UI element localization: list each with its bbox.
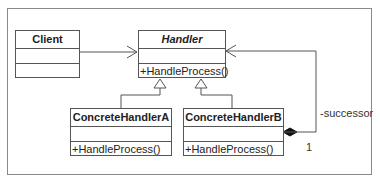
class-concrete-handler-a[interactable]: ConcreteHandlerA +HandleProcess() [70, 108, 172, 156]
class-name: ConcreteHandlerA [71, 109, 171, 127]
class-name: Handler [139, 31, 225, 49]
class-operation: +HandleProcess() [71, 142, 171, 156]
class-handler[interactable]: Handler +HandleProcess() [138, 30, 226, 78]
class-operations [16, 64, 79, 78]
successor-role-label: -successor [320, 107, 373, 119]
connectors [0, 0, 380, 185]
class-name: Client [16, 31, 79, 49]
class-attributes [16, 49, 79, 64]
class-concrete-handler-b[interactable]: ConcreteHandlerB +HandleProcess() [183, 108, 284, 156]
class-operation: +HandleProcess() [184, 142, 283, 156]
class-client[interactable]: Client [15, 30, 80, 78]
class-name: ConcreteHandlerB [184, 109, 283, 127]
generalization-b [195, 79, 232, 108]
class-attributes [71, 127, 171, 142]
class-operation: +HandleProcess() [139, 64, 225, 78]
client-handler-association [79, 46, 137, 58]
successor-multiplicity-label: 1 [306, 141, 312, 153]
class-attributes [139, 49, 225, 64]
generalization-a [121, 79, 166, 108]
class-attributes [184, 127, 283, 142]
